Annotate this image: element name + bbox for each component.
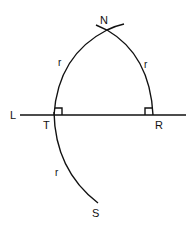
label-r-right-upper: r [144, 59, 148, 70]
arc-T-to-N [54, 30, 107, 115]
right-angle-T [55, 108, 62, 115]
right-angle-R [145, 108, 152, 115]
label-R: R [155, 119, 163, 131]
arc-T-to-S [54, 112, 98, 203]
construction-diagram: N L T R S r r r [0, 0, 191, 227]
label-r-lower: r [55, 167, 59, 178]
arc-R-to-N [96, 25, 153, 115]
label-T: T [43, 119, 50, 131]
label-S: S [92, 207, 99, 219]
label-r-left-upper: r [58, 57, 62, 68]
label-N: N [100, 14, 108, 26]
arc-crossing-N [107, 24, 124, 30]
label-L: L [10, 109, 16, 121]
